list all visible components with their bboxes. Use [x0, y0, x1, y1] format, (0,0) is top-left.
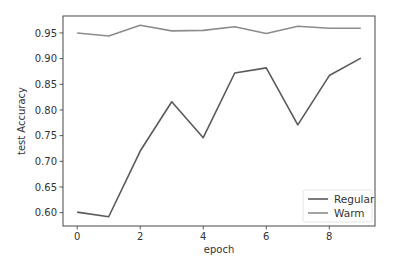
x-tick-label: 6 — [263, 231, 269, 242]
y-tick-label: 0.70 — [35, 156, 57, 167]
y-tick-label: 0.85 — [35, 79, 57, 90]
legend: RegularWarm — [303, 190, 375, 222]
y-tick-label: 0.75 — [35, 130, 57, 141]
y-tick-label: 0.90 — [35, 53, 57, 64]
legend-label-regular: Regular — [334, 193, 375, 205]
x-tick-label: 4 — [200, 231, 206, 242]
series-line-warm — [77, 25, 361, 36]
legend-label-warm: Warm — [334, 207, 365, 219]
x-axis-label: epoch — [204, 244, 234, 255]
line-chart: 0.600.650.700.750.800.850.900.95 02468 e… — [0, 0, 399, 268]
y-axis-ticks: 0.600.650.700.750.800.850.900.95 — [35, 28, 63, 219]
y-tick-label: 0.95 — [35, 28, 57, 39]
y-tick-label: 0.60 — [35, 207, 57, 218]
y-tick-label: 0.80 — [35, 105, 57, 116]
x-tick-label: 8 — [326, 231, 332, 242]
x-tick-label: 2 — [137, 231, 143, 242]
y-axis-label: test Accuracy — [16, 87, 27, 155]
series-layer — [77, 25, 361, 217]
x-tick-label: 0 — [74, 231, 80, 242]
y-tick-label: 0.65 — [35, 182, 57, 193]
x-axis-ticks: 02468 — [74, 226, 332, 242]
